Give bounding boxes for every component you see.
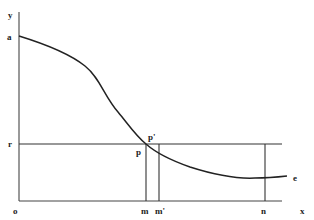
tick-m-prime-label: m' xyxy=(155,206,165,216)
curve-start-label: a xyxy=(7,32,12,42)
origin-label: o xyxy=(13,206,18,216)
x-axis-label: x xyxy=(300,206,305,216)
point-p-prime-label: p' xyxy=(148,132,156,142)
tick-n-label: n xyxy=(261,206,266,216)
curve-a-e xyxy=(19,36,287,178)
r-line-label: r xyxy=(8,139,12,149)
diagram-canvas: y a r p p' e o m m' n x xyxy=(0,0,314,220)
tick-m-label: m xyxy=(141,206,149,216)
curve-end-label: e xyxy=(293,173,297,183)
y-axis-label: y xyxy=(8,10,13,20)
point-p-label: p xyxy=(136,147,141,157)
